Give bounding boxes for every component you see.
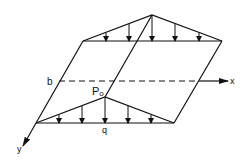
label-x-axis: x (230, 76, 235, 86)
left-edge (36, 41, 83, 123)
top-load-arrows (106, 15, 199, 41)
y-axis-arrow (23, 123, 36, 146)
right-edge (174, 41, 222, 123)
bottom-load-arrows (59, 97, 151, 123)
label-y-axis: y (17, 144, 22, 154)
plate-diagram: b Po q x y (0, 0, 244, 163)
label-p0: Po (92, 85, 104, 98)
diagram-canvas: b Po q x y (0, 0, 244, 163)
label-q: q (102, 125, 107, 135)
label-b: b (47, 76, 53, 87)
